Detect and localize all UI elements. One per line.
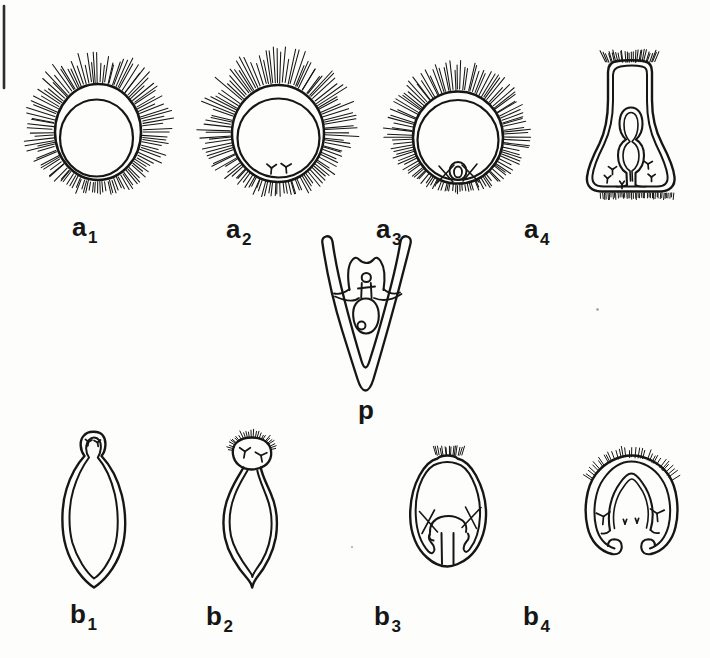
a4-mark [608, 167, 616, 175]
label-b3-base: b [374, 601, 390, 631]
b3-outer-wall [410, 456, 486, 567]
larval-stages-illustration [0, 0, 710, 658]
a2-cilia [197, 47, 359, 197]
a2-inner-wall [238, 99, 320, 178]
label-a4-sub: 4 [540, 230, 550, 249]
label-a3-base: a [376, 214, 391, 244]
label-b2: b2 [206, 603, 232, 629]
b4-apical-fringe [583, 446, 679, 480]
b3-apical-tuft [433, 446, 464, 456]
drawing-p [322, 236, 410, 390]
a1-inner-wall [60, 100, 133, 177]
drawing-a3 [383, 61, 530, 194]
label-p: p [358, 397, 374, 423]
drawing-b4 [583, 446, 679, 554]
p-stomach [353, 299, 379, 334]
label-a1-sub: 1 [88, 228, 98, 247]
b4-mark [635, 518, 638, 523]
b3-inner-wall [416, 462, 480, 553]
p-mouth [362, 273, 371, 282]
b4-mark [623, 519, 626, 524]
p-arm-band [322, 236, 410, 390]
label-a2: a2 [226, 216, 251, 242]
p-stomach-vesicle [358, 322, 366, 330]
a3-outer-wall [413, 92, 503, 184]
label-b4-base: b [523, 601, 539, 631]
b2-head-mark [240, 448, 251, 458]
b4-end-curls [608, 539, 655, 554]
a4-mark [604, 175, 611, 183]
label-p-base: p [358, 395, 374, 425]
drawing-b3 [410, 446, 486, 567]
a1-cilia [24, 52, 173, 194]
a4-basal-fringe [600, 193, 674, 200]
label-b3: b3 [374, 603, 400, 629]
label-b1-base: b [70, 599, 86, 629]
label-a2-sub: 2 [242, 230, 252, 249]
label-b4-sub: 4 [540, 617, 550, 636]
label-b4: b4 [523, 603, 549, 629]
a3-gut-loop-inner [454, 167, 462, 178]
label-b2-sub: 2 [223, 617, 233, 636]
p-body-crown [348, 258, 384, 290]
b2-head-mark [255, 452, 267, 462]
label-a2-base: a [226, 214, 241, 244]
b2-body-outer [223, 468, 276, 588]
a4-gut-inner [623, 113, 639, 182]
a2-rudiment-mark [281, 164, 291, 173]
b1-inner-wall [69, 437, 117, 578]
label-a3-sub: 3 [392, 230, 402, 249]
figure-root: a1 a2 a3 a4 p b1 b2 b3 b4 [0, 0, 710, 658]
a1-outer-wall [55, 84, 141, 180]
label-a3: a3 [376, 216, 401, 242]
label-b2-base: b [206, 601, 222, 631]
label-a4: a4 [524, 216, 549, 242]
a2-rudiment-mark [267, 164, 277, 174]
label-a1: a1 [72, 214, 97, 240]
drawing-a2 [197, 47, 359, 197]
p-esophagus [358, 283, 375, 298]
a4-mark [644, 161, 652, 169]
label-a1-base: a [72, 212, 87, 242]
drawing-b1 [62, 432, 125, 588]
drawing-b2 [223, 429, 276, 587]
a4-mark [648, 174, 655, 181]
label-a4-base: a [524, 214, 539, 244]
label-b3-sub: 3 [391, 617, 401, 636]
scan-speck [596, 308, 599, 311]
a4-gut-outer [618, 108, 644, 186]
a3-inner-wall [418, 100, 499, 180]
b4-arch-base-flares [602, 530, 660, 534]
a3-cilia [383, 61, 530, 194]
b1-outer-wall [62, 432, 125, 588]
scan-speck [351, 546, 353, 548]
label-b1: b1 [70, 601, 96, 627]
drawing-a1 [24, 52, 173, 194]
drawing-a4 [587, 49, 675, 199]
b2-body-inner [230, 471, 272, 578]
b3-archenteron [429, 516, 466, 564]
label-b1-sub: 1 [87, 615, 97, 634]
b3-branch-marks [420, 507, 482, 534]
